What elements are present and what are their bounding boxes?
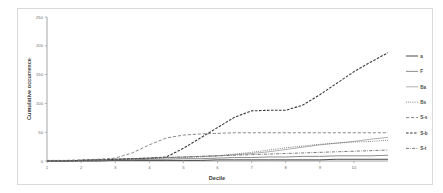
y-axis-label: Cumulative occurrence <box>26 58 32 120</box>
chart-figure: 050100150200250 12345678910 Cumulative o… <box>0 0 443 193</box>
legend-label-S-s[interactable]: S-s <box>420 115 428 120</box>
legend-label-F[interactable]: F <box>420 69 423 74</box>
x-tick-label: 5 <box>182 165 185 170</box>
y-axis-ticks: 050100150200250 <box>36 15 47 164</box>
legend-label-Bs[interactable]: Bs <box>420 100 426 105</box>
x-tick-label: 4 <box>148 165 151 170</box>
x-tick-label: 1 <box>46 165 49 170</box>
line-chart: 050100150200250 12345678910 Cumulative o… <box>0 0 443 193</box>
x-tick-label: 3 <box>114 165 117 170</box>
x-axis-ticks: 12345678910 <box>46 161 357 170</box>
x-tick-label: 10 <box>352 165 357 170</box>
legend-label-S-t[interactable]: S-t <box>420 146 427 151</box>
x-tick-label: 9 <box>319 165 322 170</box>
series-lines <box>47 53 388 161</box>
series-line-Ba <box>47 137 388 161</box>
y-tick-label: 0 <box>41 159 44 164</box>
x-axis-label: Decile <box>209 175 225 181</box>
y-tick-label: 50 <box>38 130 43 135</box>
x-tick-label: 6 <box>216 165 219 170</box>
x-tick-label: 2 <box>80 165 83 170</box>
y-tick-label: 100 <box>36 101 44 106</box>
legend-label-Ba[interactable]: Ba <box>420 85 426 90</box>
y-tick-label: 250 <box>36 15 44 20</box>
series-line-S-s <box>47 133 388 161</box>
legend: aFBaBsS-sS-bS-t <box>406 54 428 151</box>
x-tick-label: 8 <box>285 165 288 170</box>
y-tick-label: 200 <box>36 43 44 48</box>
series-line-S-b <box>47 53 388 161</box>
x-tick-label: 7 <box>250 165 253 170</box>
y-tick-label: 150 <box>36 72 44 77</box>
legend-label-a[interactable]: a <box>420 54 423 59</box>
legend-label-S-b[interactable]: S-b <box>420 131 428 136</box>
